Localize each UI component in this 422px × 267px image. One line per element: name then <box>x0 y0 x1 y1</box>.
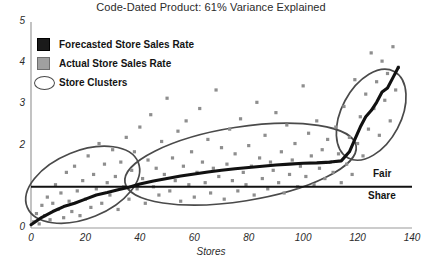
y-tick-0: 0 <box>11 221 25 232</box>
scatter-point <box>35 212 38 215</box>
scatter-point <box>253 193 256 196</box>
scatter-point <box>378 134 381 137</box>
scatter-point <box>185 119 188 122</box>
scatter-point <box>334 125 337 128</box>
scatter-point <box>92 173 95 176</box>
scatter-point <box>65 171 68 174</box>
scatter-point <box>272 169 275 172</box>
scatter-point <box>285 123 288 126</box>
scatter-point <box>114 175 117 178</box>
scatter-point <box>220 146 223 149</box>
scatter-point <box>40 204 43 207</box>
scatter-point <box>73 165 76 168</box>
scatter-point <box>141 177 144 180</box>
scatter-point <box>337 152 340 155</box>
scatter-point <box>59 191 62 194</box>
scatter-point <box>168 189 171 192</box>
scatter-point <box>367 128 370 131</box>
scatter-point <box>370 51 373 54</box>
x-tick-40: 40 <box>129 232 151 243</box>
scatter-point <box>193 196 196 199</box>
scatter-point <box>356 142 359 145</box>
cluster-middle <box>119 109 362 219</box>
scatter-point <box>155 167 158 170</box>
x-tick-140: 140 <box>401 232 422 243</box>
scatter-point <box>78 214 81 217</box>
scatter-point <box>190 150 193 153</box>
scatter-point <box>386 72 389 75</box>
scatter-point <box>68 200 71 203</box>
scatter-point <box>242 171 245 174</box>
scatter-point <box>282 191 285 194</box>
scatter-point <box>212 167 215 170</box>
scatter-point <box>163 173 166 176</box>
y-tick-3: 3 <box>11 97 25 108</box>
scatter-point <box>348 136 351 139</box>
scatter-point <box>127 198 130 201</box>
chart-legend: Forecasted Store Sales Rate Actual Store… <box>37 35 194 92</box>
x-axis-title: Stores <box>0 246 422 257</box>
ellipse-outline-icon <box>34 76 55 90</box>
scatter-point <box>182 165 185 168</box>
scatter-point <box>138 125 141 128</box>
scatter-point <box>302 84 305 87</box>
legend-label-clusters: Store Clusters <box>59 77 127 88</box>
scatter-point <box>106 181 109 184</box>
x-tick-60: 60 <box>183 232 205 243</box>
scatter-point <box>351 173 354 176</box>
scatter-point <box>277 181 280 184</box>
scatter-point <box>119 160 122 163</box>
scatter-point <box>201 160 204 163</box>
scatter-point <box>174 179 177 182</box>
scatter-point <box>293 142 296 145</box>
scatter-point <box>206 138 209 141</box>
scatter-point <box>391 45 394 48</box>
scatter-point <box>318 167 321 170</box>
scatter-point <box>149 113 152 116</box>
scatter-point <box>51 202 54 205</box>
scatter-point <box>247 144 250 147</box>
scatter-point <box>165 97 168 100</box>
scatter-point <box>255 101 258 104</box>
scatter-point <box>228 128 231 131</box>
scatter-point <box>288 173 291 176</box>
scatter-point <box>310 154 313 157</box>
scatter-point <box>375 80 378 83</box>
scatter-point <box>269 160 272 163</box>
x-tick-120: 120 <box>347 232 369 243</box>
x-tick-20: 20 <box>74 232 96 243</box>
gray-square-icon <box>37 57 50 70</box>
scatter-point <box>359 115 362 118</box>
scatter-point <box>176 130 179 133</box>
scatter-point <box>353 78 356 81</box>
scatter-point <box>380 60 383 63</box>
scatter-point <box>116 208 119 211</box>
scatter-point <box>108 193 111 196</box>
chart-container: Code-Dated Product: 61% Variance Explain… <box>0 0 422 267</box>
scatter-point <box>258 156 261 159</box>
scatter-point <box>323 177 326 180</box>
scatter-point <box>38 222 41 225</box>
legend-item-clusters: Store Clusters <box>37 73 194 92</box>
scatter-point <box>70 210 73 213</box>
black-square-icon <box>37 38 50 51</box>
scatter-point <box>214 88 217 91</box>
scatter-point <box>198 107 201 110</box>
scatter-point <box>62 216 65 219</box>
scatter-point <box>274 111 277 114</box>
scatter-point <box>383 99 386 102</box>
scatter-point <box>81 179 84 182</box>
scatter-point <box>321 148 324 151</box>
scatter-point <box>263 134 266 137</box>
x-tick-0: 0 <box>20 232 42 243</box>
scatter-point <box>342 105 345 108</box>
scatter-point <box>345 163 348 166</box>
scatter-point <box>326 138 329 141</box>
y-tick-4: 4 <box>11 56 25 67</box>
scatter-point <box>223 198 226 201</box>
scatter-point <box>130 169 133 172</box>
scatter-point <box>209 191 212 194</box>
scatter-point <box>239 117 242 120</box>
scatter-point <box>236 189 239 192</box>
scatter-point <box>315 119 318 122</box>
